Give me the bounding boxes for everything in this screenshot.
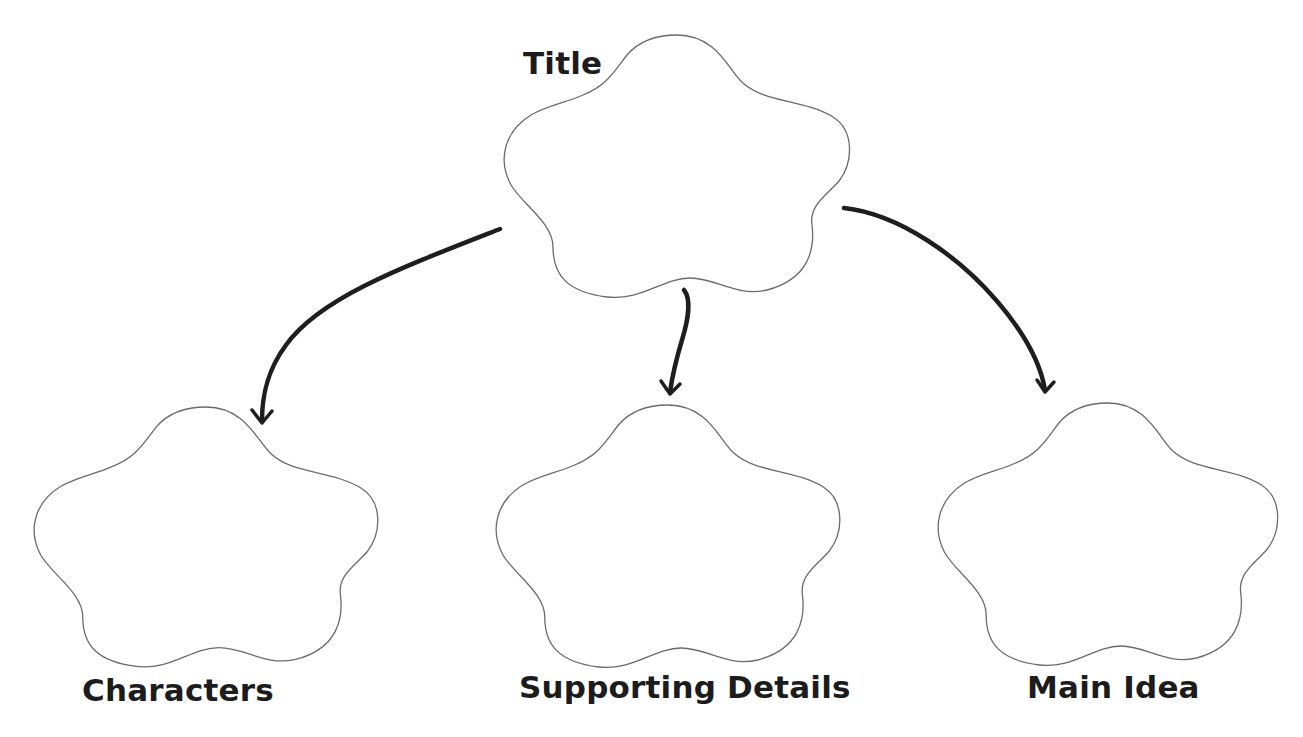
- label-characters: Characters: [82, 675, 274, 706]
- label-title: Title: [523, 48, 602, 79]
- diagram-canvas: [0, 0, 1303, 737]
- arrow-title-to-supporting-details: [661, 290, 688, 394]
- label-supporting-details: Supporting Details: [519, 672, 851, 703]
- label-main-idea: Main Idea: [1027, 672, 1200, 703]
- flower-characters: [34, 407, 378, 667]
- flower-main-idea: [938, 403, 1277, 665]
- arrow-title-to-characters: [252, 229, 500, 423]
- arrow-title-to-main-idea: [844, 208, 1054, 392]
- flower-supporting-details: [496, 405, 840, 667]
